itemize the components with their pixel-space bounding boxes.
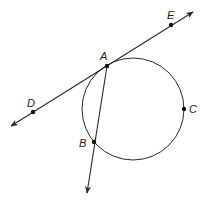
- line-ab: [87, 66, 107, 193]
- label-c: C: [189, 103, 197, 115]
- label-e: E: [167, 9, 175, 21]
- label-b: B: [79, 137, 86, 149]
- geometry-diagram: A B C D E: [0, 0, 202, 202]
- point-c: [182, 107, 186, 111]
- tangent-line-de: [11, 12, 193, 126]
- circle: [82, 58, 184, 160]
- point-b: [92, 140, 96, 144]
- point-d: [31, 110, 35, 114]
- label-d: D: [27, 97, 35, 109]
- point-e: [169, 23, 173, 27]
- point-a: [105, 64, 109, 68]
- label-a: A: [99, 50, 107, 62]
